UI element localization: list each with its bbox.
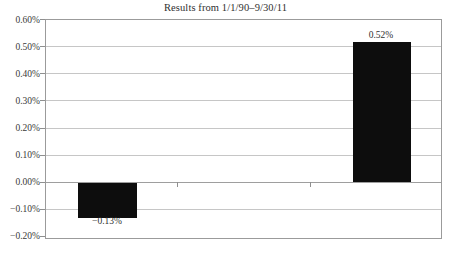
plot-area	[45, 19, 442, 239]
chart-title: Results from 1/1/90–9/30/11	[0, 1, 451, 14]
bar-negative	[78, 183, 137, 218]
y-tick-label-8: −0.20%	[2, 231, 40, 241]
y-tick-label-4: 0.20%	[2, 123, 40, 133]
chart-figure: Results from 1/1/90–9/30/11 0.60% 0.50% …	[0, 0, 451, 260]
y-tick-label-5: 0.10%	[2, 150, 40, 160]
y-tick-label-6: 0.00%	[2, 177, 40, 187]
x-tick-mark-1	[177, 182, 178, 187]
bar-label-positive: 0.52%	[351, 30, 411, 41]
bar-label-negative: −0.13%	[77, 216, 137, 227]
y-tick-label-1: 0.50%	[2, 42, 40, 52]
bottom-caption	[0, 252, 451, 260]
y-tick-label-2: 0.40%	[2, 69, 40, 79]
x-tick-mark-2	[310, 182, 311, 187]
y-tick-label-3: 0.30%	[2, 96, 40, 106]
bar-positive	[353, 42, 411, 182]
y-axis-labels: 0.60% 0.50% 0.40% 0.30% 0.20% 0.10% 0.00…	[0, 0, 40, 260]
y-tick-label-0: 0.60%	[2, 15, 40, 25]
y-tick-label-7: −0.10%	[2, 204, 40, 214]
